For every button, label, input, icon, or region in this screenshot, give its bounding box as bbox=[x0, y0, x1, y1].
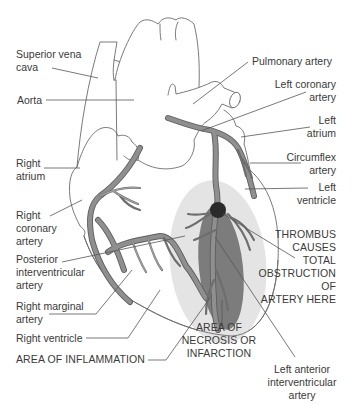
label-right-marginal-artery: Right marginal artery bbox=[16, 300, 84, 326]
label-superior-vena-cava: Superior vena cava bbox=[16, 48, 81, 74]
label-left-coronary-artery: Left coronary artery bbox=[275, 78, 336, 104]
superior-vena-cava-shape bbox=[77, 42, 117, 167]
right-atrium-shape bbox=[69, 167, 84, 236]
label-right-ventricle: Right ventricle bbox=[16, 332, 83, 345]
label-pulmonary-artery: Pulmonary artery bbox=[252, 55, 332, 68]
label-aorta: Aorta bbox=[17, 94, 42, 107]
label-left-anterior-interventricular-artery: Left anterior interventricular artery bbox=[262, 363, 342, 402]
label-left-atrium: Left atrium bbox=[307, 114, 336, 140]
label-left-ventricle: Left ventricle bbox=[297, 181, 336, 207]
label-circumflex-artery: Circumflex artery bbox=[286, 151, 336, 177]
label-area-of-inflammation: AREA OF INFLAMMATION bbox=[16, 353, 145, 366]
thrombus bbox=[210, 202, 226, 218]
heart-diagram: Superior vena cava Aorta Right atrium Ri… bbox=[0, 0, 352, 404]
aorta-shape bbox=[115, 18, 204, 96]
label-thrombus-note: THROMBUS CAUSES TOTAL OBSTRUCTION OF ART… bbox=[258, 228, 336, 306]
label-right-atrium: Right atrium bbox=[16, 157, 45, 183]
label-posterior-interventricular-artery: Posterior interventricular artery bbox=[16, 253, 85, 292]
label-area-of-necrosis: AREA OF NECROSIS OR INFARCTION bbox=[176, 321, 262, 360]
label-right-coronary-artery: Right coronary artery bbox=[16, 209, 57, 248]
